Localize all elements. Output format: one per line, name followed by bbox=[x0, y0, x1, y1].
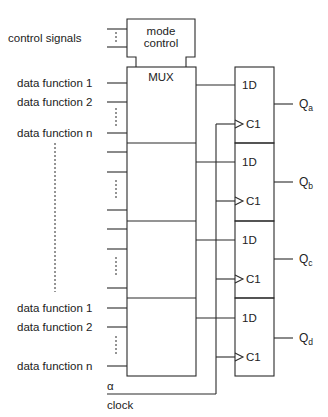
input-label-bottom-2: data function 2 bbox=[17, 321, 92, 333]
input-label-bottom-1: data function 1 bbox=[17, 302, 92, 314]
data-inputs-bottom: data function 1 data function 2 data fun… bbox=[17, 302, 127, 372]
input-label-top-n: data function n bbox=[17, 127, 92, 139]
data-inputs-top: data function 1 data function 2 data fun… bbox=[17, 77, 127, 139]
clock-input-label: C1 bbox=[246, 273, 261, 285]
clock-input-label: C1 bbox=[246, 195, 261, 207]
input-label-top-1: data function 1 bbox=[17, 77, 92, 89]
q-output-label: Qa bbox=[299, 97, 313, 113]
q-output-label: Qc bbox=[299, 252, 313, 268]
input-label-bottom-n: data function n bbox=[17, 360, 92, 372]
register-mux-diagram: control signals mode control MUX data fu… bbox=[0, 0, 328, 417]
clock-edge-triangle-icon bbox=[235, 353, 243, 361]
data-inputs-section-3 bbox=[107, 229, 127, 288]
flipflop-c: 1D C1 Qc bbox=[235, 221, 313, 298]
flipflop-outline bbox=[235, 221, 274, 298]
mode-control-label-line1: mode bbox=[147, 25, 176, 37]
input-label-top-2: data function 2 bbox=[17, 96, 92, 108]
mux-block: MUX bbox=[127, 67, 196, 376]
clock-label: clock bbox=[107, 399, 133, 411]
q-output-label: Qb bbox=[299, 175, 313, 191]
q-output-label: Qd bbox=[299, 331, 313, 347]
mode-control-block: mode control bbox=[127, 19, 195, 67]
flipflop-a: 1D C1 Qa bbox=[235, 67, 313, 143]
flipflop-b: 1D C1 Qb bbox=[235, 143, 313, 221]
mux-label: MUX bbox=[148, 71, 174, 83]
mode-control-label-line2: control bbox=[144, 37, 179, 49]
data-inputs-section-2 bbox=[107, 152, 127, 210]
clock-input-label: C1 bbox=[246, 351, 261, 363]
d-input-label: 1D bbox=[242, 79, 257, 91]
control-signals-group: control signals bbox=[8, 29, 127, 47]
flipflop-outline bbox=[235, 298, 274, 376]
d-input-label: 1D bbox=[242, 156, 257, 168]
clock-edge-triangle-icon bbox=[235, 275, 243, 283]
control-signals-label: control signals bbox=[8, 32, 82, 44]
clock-edge-triangle-icon bbox=[235, 197, 243, 205]
d-input-label: 1D bbox=[242, 312, 257, 324]
clock-input-label: C1 bbox=[246, 118, 261, 130]
flipflop-outline bbox=[235, 143, 274, 221]
clock-wiring: α clock bbox=[107, 124, 235, 411]
flipflop-d: 1D C1 Qd bbox=[235, 298, 313, 376]
d-input-label: 1D bbox=[242, 234, 257, 246]
clock-edge-triangle-icon bbox=[235, 120, 243, 128]
alpha-label: α bbox=[107, 380, 114, 392]
